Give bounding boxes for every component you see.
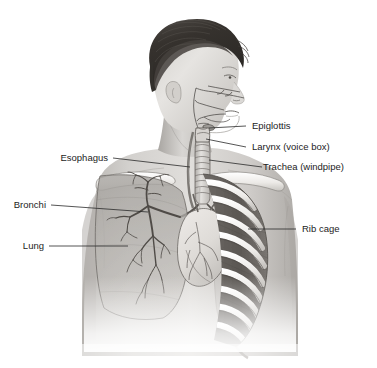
larynx (195, 128, 210, 142)
label-lung: Lung (23, 240, 44, 251)
label-trachea: Trachea (windpipe) (263, 161, 344, 172)
respiratory-system-illustration: Epiglottis Larynx (voice box) Trachea (w… (0, 0, 377, 368)
label-bronchi: Bronchi (14, 199, 46, 210)
label-epiglottis: Epiglottis (252, 120, 291, 131)
leader-larynx (206, 139, 246, 147)
label-larynx: Larynx (voice box) (252, 141, 330, 152)
label-ribcage: Rib cage (302, 223, 340, 234)
label-esophagus: Esophagus (60, 152, 108, 163)
head-profile (149, 19, 249, 133)
